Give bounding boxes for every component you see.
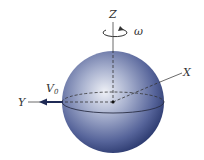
- velocity-arrowhead: [39, 99, 47, 106]
- velocity-label: V0: [46, 82, 59, 96]
- center-point: [111, 100, 114, 103]
- z-axis-label: Z: [108, 8, 117, 21]
- x-axis-label: X: [182, 66, 192, 79]
- rotation-arrowhead: [118, 26, 124, 31]
- velocity-subscript: 0: [54, 88, 59, 96]
- rotation-arrow-icon: [103, 29, 127, 37]
- omega-label: ω: [134, 25, 143, 38]
- y-axis-label: Y: [18, 96, 27, 109]
- sphere-diagram: Z ω X Y V0: [0, 0, 204, 160]
- x-axis-line: [160, 73, 182, 82]
